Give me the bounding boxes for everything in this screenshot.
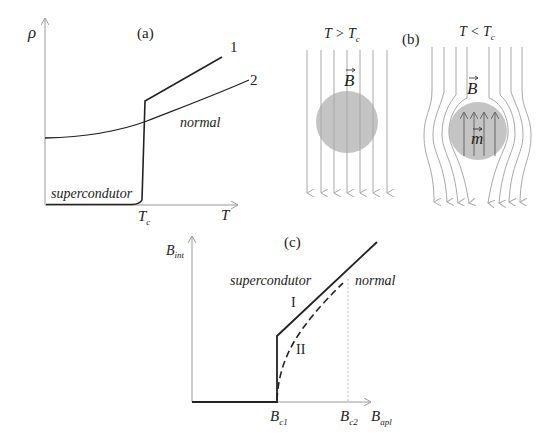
curve-2-label: 2 bbox=[250, 72, 258, 88]
field-vector-label: B bbox=[467, 76, 478, 98]
type-ii-label: II bbox=[296, 342, 306, 357]
panel-b-normal-state: T > Tc B bbox=[307, 26, 387, 193]
curve-1-label: 1 bbox=[230, 39, 238, 55]
type-i-curve bbox=[192, 242, 377, 402]
type-i-label: I bbox=[291, 295, 296, 310]
t-axis-label: T bbox=[221, 207, 231, 223]
b-int-axis-label: Bint bbox=[166, 243, 185, 260]
panel-c-tag: (c) bbox=[284, 234, 301, 251]
panel-c-magnetization-plot: Bint (c) supercondutor normal I II Bc1 B… bbox=[166, 234, 396, 427]
tc-tick-label: Tc bbox=[138, 208, 150, 227]
type-ii-curve bbox=[277, 283, 343, 400]
panel-b-meissner-state: (b) T < Tc B m bbox=[402, 24, 531, 203]
panel-a-tag: (a) bbox=[137, 25, 154, 42]
condition-below-tc: T < Tc bbox=[459, 24, 495, 42]
panel-a-resistivity-plot: ρ (a) 1 2 normal supercondutor Tc T bbox=[27, 18, 258, 227]
svg-text:m: m bbox=[471, 129, 483, 148]
curve-1-superconductor bbox=[46, 57, 222, 205]
moment-vector-label: m bbox=[471, 127, 483, 148]
svg-text:B: B bbox=[344, 71, 355, 90]
superconductor-label: supercondutor bbox=[51, 186, 133, 201]
svg-text:B: B bbox=[467, 79, 478, 98]
rho-axis-label: ρ bbox=[27, 23, 36, 42]
normal-label: normal bbox=[355, 273, 396, 288]
bc2-tick-label: Bc2 bbox=[340, 408, 358, 427]
b-apl-axis-label: Bapl bbox=[371, 408, 392, 427]
field-vector-label: B bbox=[344, 68, 355, 90]
bc1-tick-label: Bc1 bbox=[270, 408, 288, 427]
normal-label: normal bbox=[180, 115, 221, 130]
superconductor-label: supercondutor bbox=[230, 273, 312, 288]
condition-above-tc: T > Tc bbox=[324, 26, 360, 44]
superconductivity-figure: ρ (a) 1 2 normal supercondutor Tc T T > … bbox=[0, 0, 542, 444]
panel-b-tag: (b) bbox=[402, 31, 420, 48]
